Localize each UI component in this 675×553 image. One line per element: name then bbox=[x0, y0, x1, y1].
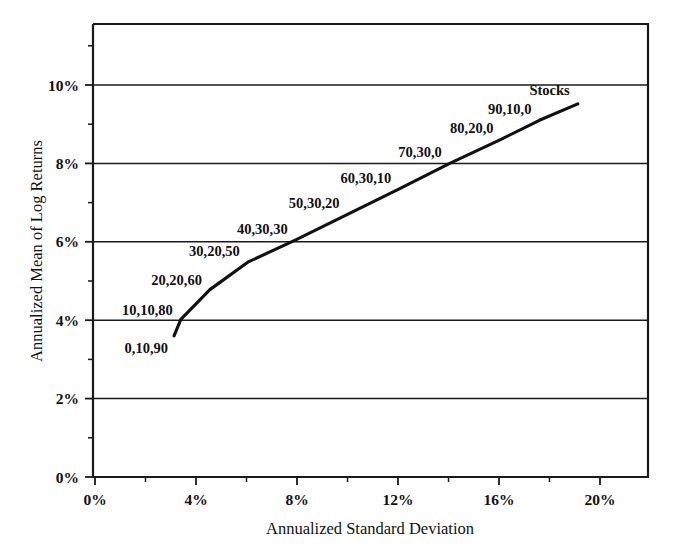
y-tick-label-4: 4% bbox=[56, 312, 79, 329]
x-tick-label-0: 0% bbox=[83, 491, 106, 508]
point-label-10-10-80: 10,10,80 bbox=[122, 302, 173, 318]
chart-figure: 0%2%4%6%8%10% 0%4%8%12%16%20% 0,10,9010,… bbox=[0, 0, 675, 553]
point-label-50-30-20: 50,30,20 bbox=[289, 195, 340, 211]
x-tick-label-4: 4% bbox=[184, 491, 207, 508]
x-axis-ticks bbox=[95, 477, 600, 485]
x-tick-label-8: 8% bbox=[285, 491, 308, 508]
y-axis-tick-labels: 0%2%4%6%8%10% bbox=[48, 77, 79, 486]
y-tick-label-2: 2% bbox=[56, 390, 79, 407]
point-label-30-20-50: 30,20,50 bbox=[189, 243, 240, 259]
y-tick-label-0: 0% bbox=[56, 469, 79, 486]
point-label-40-30-30: 40,30,30 bbox=[237, 221, 288, 237]
point-label-70-30-0: 70,30,0 bbox=[398, 144, 442, 160]
x-tick-label-12: 12% bbox=[383, 491, 414, 508]
x-tick-label-20: 20% bbox=[585, 491, 616, 508]
y-axis-title: Annualized Mean of Log Returns bbox=[27, 140, 46, 362]
efficient-frontier-chart: 0%2%4%6%8%10% 0%4%8%12%16%20% 0,10,9010,… bbox=[0, 0, 675, 553]
y-tick-label-6: 6% bbox=[56, 233, 79, 250]
point-label-20-20-60: 20,20,60 bbox=[151, 272, 202, 288]
x-tick-label-16: 16% bbox=[484, 491, 515, 508]
point-label-90-10-0: 90,10,0 bbox=[488, 101, 532, 117]
point-label-Stocks: Stocks bbox=[529, 82, 570, 98]
x-axis-title: Annualized Standard Deviation bbox=[266, 519, 474, 538]
point-label-0-10-90: 0,10,90 bbox=[125, 340, 169, 356]
y-tick-label-10: 10% bbox=[48, 77, 79, 94]
point-label-80-20-0: 80,20,0 bbox=[450, 120, 494, 136]
x-axis-tick-labels: 0%4%8%12%16%20% bbox=[83, 491, 615, 508]
y-axis-ticks bbox=[85, 46, 93, 477]
y-tick-label-8: 8% bbox=[56, 155, 79, 172]
point-label-60-30-10: 60,30,10 bbox=[341, 170, 392, 186]
